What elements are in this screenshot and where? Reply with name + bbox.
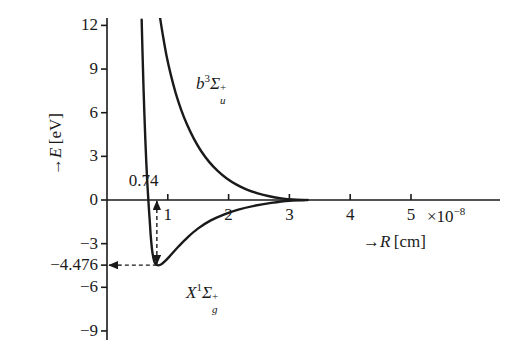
x-axis-exponent-power: −8 xyxy=(454,205,466,217)
series-label-excited-state: b3Σu+ xyxy=(196,73,228,92)
y-axis-special-tick-label: −4.476 xyxy=(50,256,98,273)
x-axis-exponent-label: ×10−8 xyxy=(427,206,465,225)
x-axis-exponent-mantissa: ×10 xyxy=(427,207,454,226)
y-axis-title-unit: [eV] xyxy=(46,113,65,148)
term-parity: u xyxy=(220,95,226,106)
x-axis-title-unit: [cm] xyxy=(390,232,426,251)
y-axis-tick-label: −3 xyxy=(80,235,98,252)
curves-group xyxy=(142,17,308,266)
curve-excited-state xyxy=(160,17,305,200)
potential-energy-curve-figure: 129630−3−6−9 12345 −4.476 ×10−8 →R [cm] … xyxy=(0,0,518,350)
series-label-ground-state: X1Σg+ xyxy=(186,282,220,301)
y-axis-arrow-icon: → xyxy=(46,158,65,175)
y-axis-title: →E [eV] xyxy=(46,113,66,175)
x-axis-title-symbol: R xyxy=(380,232,390,251)
term-letter: b xyxy=(196,74,205,93)
x-axis-tick-label: 2 xyxy=(215,206,243,223)
term-charge: + xyxy=(220,82,226,93)
y-axis-tick-label: 12 xyxy=(81,16,98,33)
term-parity: g xyxy=(212,304,218,315)
x-axis-title: →R [cm] xyxy=(363,233,426,250)
term-letter: X xyxy=(186,283,196,302)
term-sigma: Σ xyxy=(210,74,220,93)
term-charge: + xyxy=(212,291,218,302)
x-axis-tick-label: 5 xyxy=(397,206,425,223)
y-axis-title-symbol: E xyxy=(46,148,65,158)
y-axis-tick-label: −6 xyxy=(80,278,98,295)
x-axis-tick-label: 4 xyxy=(336,206,364,223)
y-axis-tick-label: −9 xyxy=(80,322,98,339)
axes-group xyxy=(101,18,500,340)
x-axis-arrow-icon: → xyxy=(363,232,380,251)
y-axis-tick-label: 9 xyxy=(90,60,99,77)
plot-canvas xyxy=(0,0,518,350)
y-axis-tick-label: 0 xyxy=(90,191,99,208)
bond-length-annotation-label: 0.74 xyxy=(129,172,159,189)
x-axis-tick-label: 1 xyxy=(154,206,182,223)
x-axis-tick-label: 3 xyxy=(275,206,303,223)
y-axis-tick-label: 3 xyxy=(90,147,99,164)
y-axis-tick-label: 6 xyxy=(90,104,99,121)
term-sigma: Σ xyxy=(202,283,212,302)
